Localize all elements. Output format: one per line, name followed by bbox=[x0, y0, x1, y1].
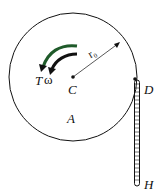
end-label: H bbox=[144, 178, 153, 191]
omega-label: ω bbox=[44, 73, 53, 86]
disk-chain-diagram bbox=[0, 0, 163, 194]
radius-line bbox=[73, 43, 119, 77]
torque-label: T bbox=[35, 74, 42, 87]
contact-label: D bbox=[144, 83, 153, 96]
chain-links bbox=[135, 84, 140, 180]
omega-arrow-icon bbox=[52, 54, 77, 69]
torque-arrowhead-icon bbox=[39, 64, 47, 72]
center-label: C bbox=[68, 83, 77, 96]
torque-arrow-icon bbox=[43, 46, 77, 67]
disk-label: A bbox=[67, 112, 75, 125]
radius-arrowhead-icon bbox=[114, 42, 120, 48]
